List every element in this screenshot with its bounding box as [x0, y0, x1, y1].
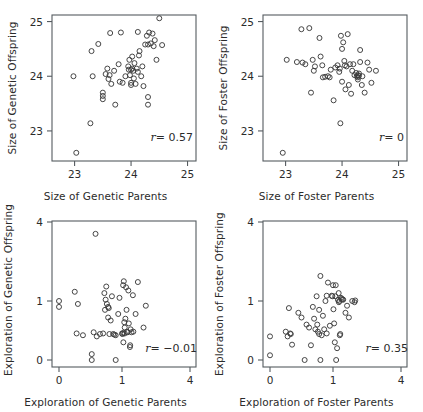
y-axis-label-foster-size: Size of Foster Offspring	[217, 8, 229, 168]
x-axis-label-genetic-size: Size of Genetic Parents	[0, 190, 211, 202]
svg-text:1: 1	[247, 295, 254, 307]
r-value: = −0.01	[151, 342, 197, 355]
panel-genetic-size: 232425232425 Size of Genetic Offspring S…	[0, 0, 211, 206]
svg-text:0: 0	[247, 354, 254, 366]
panel-foster-size: 232425232425 Size of Foster Offspring Si…	[211, 0, 422, 206]
svg-text:0: 0	[267, 374, 274, 386]
svg-text:23: 23	[68, 168, 81, 180]
y-axis-label-foster-exploration: Exploration of Foster Offspring	[213, 216, 225, 376]
svg-text:25: 25	[30, 16, 43, 28]
r-value: = 0.35	[371, 342, 408, 355]
svg-text:0: 0	[36, 354, 43, 366]
svg-text:23: 23	[241, 125, 254, 137]
svg-text:4: 4	[187, 374, 194, 386]
correlation-annotation-foster-exploration: r= 0.35	[366, 342, 408, 355]
svg-text:24: 24	[124, 168, 138, 180]
plot-area-foster-size: 232425232425	[211, 0, 422, 206]
svg-text:1: 1	[119, 374, 126, 386]
plot-area-foster-exploration: 014014	[211, 206, 422, 412]
svg-text:25: 25	[181, 168, 194, 180]
x-axis-label-genetic-exploration: Exploration of Genetic Parents	[0, 396, 211, 408]
svg-text:4: 4	[36, 216, 43, 228]
plot-area-genetic-size: 232425232425	[0, 0, 211, 206]
svg-text:24: 24	[241, 70, 255, 82]
r-value: = 0.57	[156, 131, 193, 144]
svg-text:1: 1	[330, 374, 337, 386]
svg-text:25: 25	[392, 168, 405, 180]
svg-text:4: 4	[247, 216, 254, 228]
correlation-annotation-genetic-exploration: r= −0.01	[145, 342, 197, 355]
svg-text:4: 4	[398, 374, 405, 386]
y-axis-label-genetic-exploration: Exploration of Genetic Offspring	[2, 216, 14, 376]
panel-foster-exploration: 014014 Exploration of Foster Offspring E…	[211, 206, 422, 412]
x-axis-label-foster-size: Size of Foster Parents	[211, 190, 422, 202]
svg-text:1: 1	[36, 295, 43, 307]
x-axis-label-foster-exploration: Exploration of Foster Parents	[211, 396, 422, 408]
svg-text:24: 24	[30, 70, 44, 82]
r-value: = 0	[384, 131, 404, 144]
svg-text:0: 0	[56, 374, 63, 386]
svg-text:23: 23	[30, 125, 43, 137]
plot-area-genetic-exploration: 014014	[0, 206, 211, 412]
panel-genetic-exploration: 014014 Exploration of Genetic Offspring …	[0, 206, 211, 412]
svg-text:23: 23	[279, 168, 292, 180]
svg-text:24: 24	[335, 168, 349, 180]
y-axis-label-genetic-size: Size of Genetic Offspring	[6, 8, 18, 168]
svg-text:25: 25	[241, 16, 254, 28]
correlation-annotation-genetic-size: r= 0.57	[151, 131, 193, 144]
correlation-annotation-foster-size: r= 0	[379, 131, 404, 144]
